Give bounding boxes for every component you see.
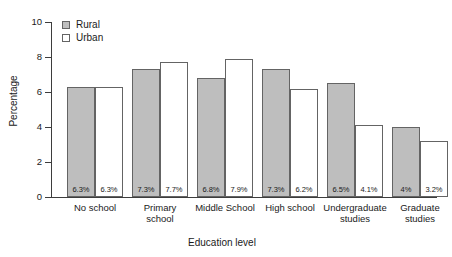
bar-urban-high-school: 6.2% <box>290 89 318 198</box>
x-axis-title: Education level <box>0 238 444 248</box>
bar-urban-no-school: 6.3% <box>95 87 123 197</box>
bar-urban-graduate-studies: 3.2% <box>420 141 448 197</box>
bar-value-label: 3.2% <box>421 186 447 194</box>
y-axis-tick-label-text: 2 <box>22 157 42 167</box>
bar-value-label: 6.3% <box>68 186 94 194</box>
y-axis-tick-label: 2 <box>20 157 42 167</box>
bar-value-label: 6.5% <box>328 186 354 194</box>
bar-urban-undergraduate-studies: 4.1% <box>355 125 383 197</box>
y-axis-tick-label-text: 8 <box>22 52 42 62</box>
bar-value-label: 6.3% <box>96 186 122 194</box>
y-axis-tick <box>45 162 51 163</box>
x-axis-line <box>51 197 437 198</box>
legend-item-label: Urban <box>76 31 103 44</box>
bar-value-label: 4.1% <box>356 186 382 194</box>
legend-item-urban: Urban <box>62 31 103 44</box>
x-axis-group-label: Graduatestudies <box>370 202 452 224</box>
y-axis-tick-label: 8 <box>20 52 42 62</box>
y-axis-tick-label-text: 6 <box>22 87 42 97</box>
bar-urban-primary-school: 7.7% <box>160 62 188 197</box>
bar-rural-primary-school: 7.3% <box>132 69 160 197</box>
bar-value-label: 7.7% <box>161 186 187 194</box>
y-axis-tick <box>45 127 51 128</box>
plot-area: 6.3%6.3%7.3%7.7%6.8%7.9%7.3%6.2%6.5%4.1%… <box>52 22 437 197</box>
x-axis-group-label-line: Graduate <box>370 202 452 213</box>
y-axis-tick-label: 10 <box>20 17 42 27</box>
y-axis-tick-label-text: 0 <box>22 192 42 202</box>
bar-rural-no-school: 6.3% <box>67 87 95 197</box>
y-axis-tick <box>45 92 51 93</box>
legend-swatch-icon <box>62 34 70 42</box>
bar-value-label: 7.9% <box>226 186 252 194</box>
legend-swatch-icon <box>62 21 70 29</box>
legend-item-rural: Rural <box>62 18 103 31</box>
bar-urban-middle-school: 7.9% <box>225 59 253 197</box>
y-axis-tick <box>45 197 51 198</box>
bar-value-label: 4% <box>393 186 419 194</box>
legend-item-label: Rural <box>76 18 100 31</box>
bar-value-label: 6.2% <box>291 186 317 194</box>
bar-rural-graduate-studies: 4% <box>392 127 420 197</box>
y-axis-tick-label-text: 4 <box>22 122 42 132</box>
y-axis-tick <box>45 22 51 23</box>
bar-rural-middle-school: 6.8% <box>197 78 225 197</box>
y-axis-tick-label-text: 10 <box>22 17 42 27</box>
y-axis-title: Percentage <box>9 46 19 156</box>
y-axis-tick-label: 4 <box>20 122 42 132</box>
y-axis-tick <box>45 57 51 58</box>
bar-value-label: 6.8% <box>198 186 224 194</box>
bar-rural-high-school: 7.3% <box>262 69 290 197</box>
y-axis-tick-label: 6 <box>20 87 42 97</box>
bar-value-label: 7.3% <box>263 186 289 194</box>
y-axis-tick-label: 0 <box>20 192 42 202</box>
chart-legend: RuralUrban <box>62 18 103 44</box>
bar-rural-undergraduate-studies: 6.5% <box>327 83 355 197</box>
bar-value-label: 7.3% <box>133 186 159 194</box>
x-axis-group-label-line: studies <box>370 213 452 224</box>
x-axis-group-label-line: school <box>110 213 210 224</box>
